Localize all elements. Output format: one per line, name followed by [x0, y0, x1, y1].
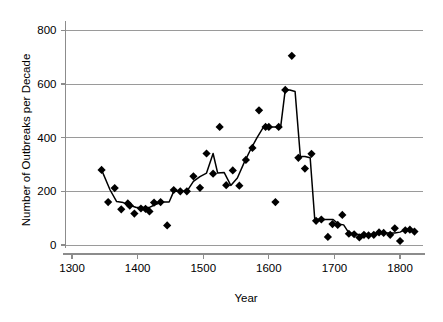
chart-container: 0200400600800 130014001500160017001800 Y…: [0, 0, 443, 322]
x-axis-title: Year: [234, 292, 257, 304]
x-tick-label-1300: 1300: [59, 262, 85, 274]
y-tick-label-600: 600: [37, 78, 56, 90]
y-tick-label-400: 400: [37, 132, 56, 144]
x-tick-label-1800: 1800: [387, 262, 413, 274]
x-tick-label-1400: 1400: [125, 262, 151, 274]
outbreaks-per-decade-scatter-chart: 0200400600800 130014001500160017001800 Y…: [0, 0, 443, 322]
y-axis-title: Number of Outbreaks per Decade: [20, 54, 32, 227]
x-tick-label-1600: 1600: [256, 262, 282, 274]
x-tick-label-1700: 1700: [322, 262, 348, 274]
x-tick-label-1500: 1500: [190, 262, 216, 274]
y-tick-label-800: 800: [37, 24, 56, 36]
y-tick-label-200: 200: [37, 185, 56, 197]
y-tick-label-0: 0: [50, 239, 56, 251]
